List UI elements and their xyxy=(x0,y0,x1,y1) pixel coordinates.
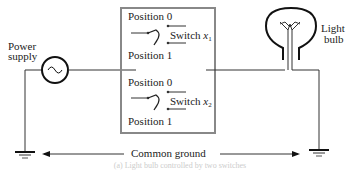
switch1-label: Switch x1 xyxy=(170,30,212,45)
light-bulb-icon xyxy=(266,8,316,70)
switch2-position0: Position 0 xyxy=(128,77,172,88)
ac-source-icon xyxy=(42,57,68,83)
switch1-position1: Position 1 xyxy=(128,50,172,61)
switch1-position0: Position 0 xyxy=(128,11,172,22)
switch2-label: Switch x2 xyxy=(170,96,212,111)
ground-icon-left xyxy=(15,152,35,158)
ground-icon-right xyxy=(309,150,329,156)
power-supply-label-2: supply xyxy=(8,51,37,62)
switch2-position1: Position 1 xyxy=(128,116,172,127)
common-ground-label: Common ground xyxy=(131,148,206,159)
figure-caption: (a) Light bulb controlled by two switche… xyxy=(80,161,280,170)
light-bulb-label-2: bulb xyxy=(324,34,344,45)
